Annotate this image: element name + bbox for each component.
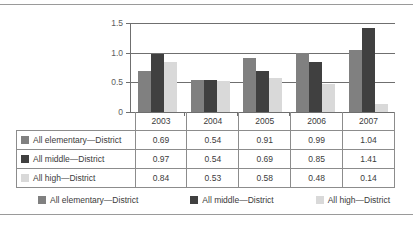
bottom-divider <box>0 214 413 215</box>
bar <box>243 58 256 112</box>
table-cell: 1.41 <box>343 150 395 169</box>
row-label-cell: All elementary—District <box>17 131 136 150</box>
bar <box>296 53 309 112</box>
y-axis-label: 0.5 <box>111 77 123 87</box>
legend-item: All elementary—District <box>38 195 138 205</box>
legend-label: All elementary—District <box>50 195 138 205</box>
bar-group-2005 <box>237 23 290 112</box>
row-label-text: All elementary—District <box>33 135 121 145</box>
bar <box>164 62 177 112</box>
legend-swatch-icon <box>316 196 324 204</box>
data-table: 20032004200520062007All elementary—Distr… <box>16 112 395 188</box>
table-cell: 0.85 <box>291 150 343 169</box>
table-cell: 0.14 <box>343 169 395 188</box>
table-cell: 0.54 <box>187 150 239 169</box>
bar <box>204 80 217 112</box>
bar <box>191 80 204 112</box>
bar <box>375 104 388 112</box>
column-header-2006: 2006 <box>291 112 343 131</box>
table-cell: 0.69 <box>135 131 187 150</box>
y-axis-label: 1.5 <box>111 18 123 28</box>
y-tick <box>126 82 130 83</box>
row-label-text: All high—District <box>33 173 95 183</box>
legend-swatch-icon <box>38 196 46 204</box>
y-axis-label: 1.0 <box>111 48 123 58</box>
bar-group-2006 <box>289 23 342 112</box>
table-row: All middle—District0.970.540.690.851.41 <box>17 150 395 169</box>
table-cell: 0.99 <box>291 131 343 150</box>
bar <box>151 54 164 112</box>
bar <box>322 84 335 112</box>
bar <box>217 81 230 112</box>
legend-label: All middle—District <box>202 195 273 205</box>
table-row: All high—District0.840.530.580.480.14 <box>17 169 395 188</box>
y-tick <box>126 53 130 54</box>
table-cell: 0.54 <box>187 131 239 150</box>
bar-groups <box>131 23 395 112</box>
column-header-2004: 2004 <box>187 112 239 131</box>
table-cell: 1.04 <box>343 131 395 150</box>
chart-figure: 00.51.01.5 20032004200520062007All eleme… <box>0 0 413 225</box>
column-header-2003: 2003 <box>135 112 187 131</box>
row-label-cell: All high—District <box>17 169 136 188</box>
table-cell: 0.48 <box>291 169 343 188</box>
bar <box>309 62 322 112</box>
table-cell: 0.91 <box>239 131 291 150</box>
table-cell: 0.69 <box>239 150 291 169</box>
table-corner-cell <box>17 112 136 131</box>
series-swatch-icon <box>21 136 29 144</box>
bar <box>138 71 151 112</box>
bar-group-2003 <box>131 23 184 112</box>
series-swatch-icon <box>21 155 29 163</box>
legend-label: All high—District <box>328 195 390 205</box>
table-cell: 0.97 <box>135 150 187 169</box>
table-cell: 0.58 <box>239 169 291 188</box>
bar-group-2004 <box>184 23 237 112</box>
table-cell: 0.53 <box>187 169 239 188</box>
plot-area: 00.51.01.5 <box>130 23 395 112</box>
table-cell: 0.84 <box>135 169 187 188</box>
bar <box>362 28 375 112</box>
y-tick <box>126 23 130 24</box>
bar <box>269 78 282 112</box>
table-header-row: 20032004200520062007 <box>17 112 395 131</box>
legend-item: All middle—District <box>190 195 273 205</box>
column-header-2005: 2005 <box>239 112 291 131</box>
table-row: All elementary—District0.690.540.910.991… <box>17 131 395 150</box>
top-divider <box>0 4 413 5</box>
legend-item: All high—District <box>316 195 390 205</box>
legend-swatch-icon <box>190 196 198 204</box>
chart-legend: All elementary—DistrictAll middle—Distri… <box>16 193 395 207</box>
bar-group-2007 <box>342 23 395 112</box>
bar <box>349 50 362 112</box>
row-label-cell: All middle—District <box>17 150 136 169</box>
series-swatch-icon <box>21 174 29 182</box>
column-header-2007: 2007 <box>343 112 395 131</box>
bar <box>256 71 269 112</box>
row-label-text: All middle—District <box>33 154 104 164</box>
